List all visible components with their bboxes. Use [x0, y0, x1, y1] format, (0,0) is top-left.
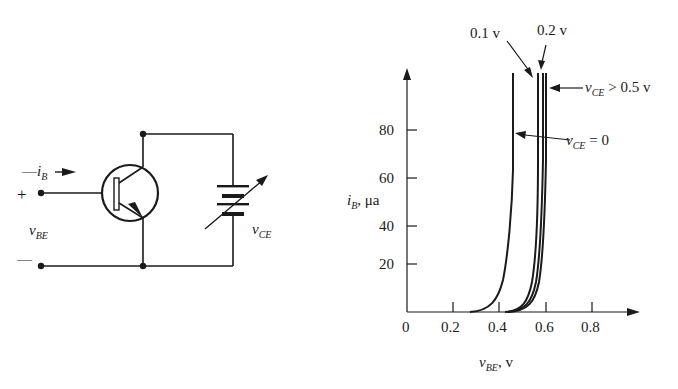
transistor-base-bar	[114, 178, 119, 210]
x-axis-arrow-icon	[627, 308, 640, 316]
y-axis-label: iB, μa	[347, 193, 379, 208]
vbe-label: vBE	[29, 223, 48, 238]
transistor-body	[102, 165, 158, 221]
battery-icon	[217, 185, 249, 216]
x-tick-0.4: 0.4	[488, 320, 507, 335]
y-tick-60: 60	[379, 171, 394, 186]
y-tick-20: 20	[379, 257, 394, 272]
x-tick-0: 0	[402, 320, 410, 335]
x-tick-0.2: 0.2	[441, 320, 460, 335]
current-label: —iB	[22, 164, 47, 179]
y-tick-40: 40	[379, 219, 394, 234]
y-axis-arrow-icon	[403, 68, 411, 80]
x-tick-0.6: 0.6	[535, 320, 554, 335]
x-tick-0.8: 0.8	[581, 320, 600, 335]
vce-label: vCE	[252, 222, 271, 237]
figure-canvas	[0, 0, 678, 389]
junction-dots	[38, 131, 146, 269]
annotation-vce-gt-0.5: vCE > 0.5 v	[585, 80, 650, 95]
annotation-vce-0: vCE = 0	[566, 133, 609, 148]
plus-terminal-label: +	[17, 186, 27, 203]
curve-vce-0.1	[505, 73, 538, 312]
annotation-vce-0.2: 0.2 v	[537, 23, 567, 38]
transistor-collector	[119, 167, 143, 183]
y-tick-80: 80	[379, 123, 394, 138]
minus-terminal-label: —	[17, 252, 32, 267]
annotation-vce-0.1: 0.1 v	[470, 26, 500, 41]
curve-vce-0	[470, 73, 513, 312]
characteristic-curves	[470, 73, 546, 312]
circuit-diagram	[41, 134, 233, 266]
chart-axes	[407, 78, 630, 312]
annotation-leaders	[507, 41, 583, 140]
x-axis-label: vBE, v	[479, 355, 513, 370]
current-arrow-icon	[62, 168, 76, 176]
